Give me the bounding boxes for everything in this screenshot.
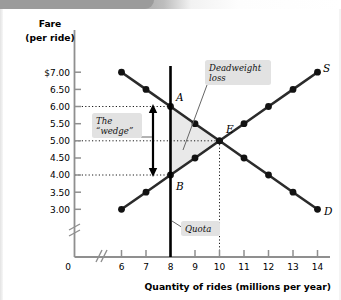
x-axis-title: Quantity of rides (millions per year) [145, 281, 331, 292]
x-axis-tick-labels: 6 7 8 9 10 11 12 13 14 0 [65, 262, 323, 272]
y-tick-label-6: 4.00 [50, 170, 70, 180]
x-tick-label-0: 6 [119, 262, 125, 272]
y-axis-title-line1: Fare [39, 18, 62, 29]
y-axis-title-line2: (per ride) [25, 32, 74, 43]
demand-point-12 [265, 172, 272, 179]
supply-point-13 [290, 86, 297, 93]
deadweight-loss-label-line2: loss [209, 73, 226, 83]
x-axis-ticks [122, 250, 318, 257]
y-axis-ticks [75, 72, 82, 209]
supply-curve-label: S [323, 62, 330, 74]
x-axis-origin-label: 0 [65, 262, 71, 272]
x-tick-label-3: 9 [192, 262, 198, 272]
demand-curve-label: D [323, 205, 333, 217]
y-tick-label-1: 6.50 [50, 85, 70, 95]
x-tick-label-5: 11 [238, 262, 249, 272]
wedge-arrow-head-up [149, 104, 157, 113]
demand-point-14 [314, 206, 321, 213]
y-tick-label-7: 3.50 [50, 188, 70, 198]
wedge-label-line2: “wedge” [96, 126, 133, 136]
chart-page: $7.00 6.50 6.00 5.50 5.00 4.50 4.00 3.50… [0, 0, 341, 300]
point-label-E: E [225, 123, 234, 135]
x-tick-label-2: 8 [168, 262, 174, 272]
supply-point-6 [118, 206, 125, 213]
quota-label-text: Quota [185, 224, 211, 234]
quota-annotation: Quota [172, 221, 220, 236]
x-tick-label-8: 14 [312, 262, 324, 272]
x-tick-label-4: 10 [214, 262, 226, 272]
demand-point-7 [143, 86, 150, 93]
y-tick-label-5: 4.50 [50, 153, 70, 163]
demand-curve: D [118, 69, 333, 217]
y-tick-label-2: 6.00 [50, 102, 70, 112]
y-tick-label-0: $7.00 [44, 68, 70, 78]
point-label-B: B [175, 180, 184, 192]
supply-point-12 [265, 103, 272, 110]
x-tick-label-6: 12 [263, 262, 274, 272]
wedge-label-line1: The [96, 116, 112, 126]
supply-point-9 [192, 155, 199, 162]
supply-point-10 [216, 137, 223, 144]
y-tick-label-3: 5.50 [50, 119, 70, 129]
y-axis-tick-labels: $7.00 6.50 6.00 5.50 5.00 4.50 4.00 3.50… [44, 68, 70, 215]
supply-demand-quota-chart: $7.00 6.50 6.00 5.50 5.00 4.50 4.00 3.50… [0, 0, 341, 300]
supply-point-7 [143, 189, 150, 196]
wedge-annotation: The “wedge” [92, 113, 152, 138]
demand-point-13 [290, 189, 297, 196]
demand-point-6 [118, 69, 125, 76]
y-tick-label-4: 5.00 [50, 136, 70, 146]
demand-point-11 [241, 155, 248, 162]
supply-point-14 [314, 69, 321, 76]
y-tick-label-8: 3.00 [50, 205, 70, 215]
wedge-arrow-head-down [149, 168, 157, 177]
point-label-A: A [175, 91, 184, 103]
deadweight-loss-label-line1: Deadweight [208, 63, 262, 73]
x-tick-label-1: 7 [143, 262, 149, 272]
x-tick-label-7: 13 [287, 262, 298, 272]
x-axis-break-icon [96, 250, 107, 262]
supply-point-11 [241, 120, 248, 127]
